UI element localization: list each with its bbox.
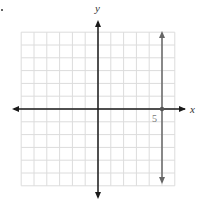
tick-label-5: 5 bbox=[152, 113, 157, 124]
coordinate-plane: 5 x y bbox=[0, 0, 203, 203]
x-axis-right-arrow-icon bbox=[179, 106, 186, 112]
y-axis-up-arrow-icon bbox=[95, 20, 101, 27]
bullet-dot bbox=[1, 9, 3, 11]
x-axis-label: x bbox=[189, 103, 195, 115]
point-5-0 bbox=[160, 107, 164, 111]
y-axis-down-arrow-icon bbox=[95, 192, 101, 199]
x-axis-left-arrow-icon bbox=[12, 106, 19, 112]
line-down-arrow-icon bbox=[159, 177, 165, 184]
y-axis-label: y bbox=[94, 2, 100, 14]
